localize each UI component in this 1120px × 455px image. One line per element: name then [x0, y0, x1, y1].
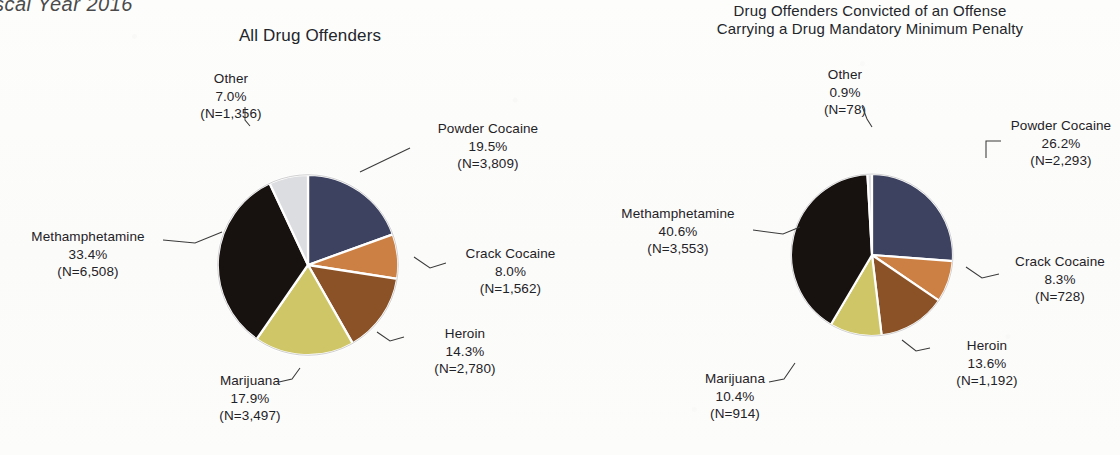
- slice-label-percent: 40.6%: [598, 223, 758, 241]
- slice-label-percent: 17.9%: [190, 390, 310, 408]
- slice-label-name: Powder Cocaine: [413, 120, 563, 138]
- slice-label-count: (N=1,562): [448, 280, 573, 298]
- slice-label-methamphetamine-left: Methamphetamine 33.4% (N=6,508): [8, 228, 168, 281]
- slice-label-name: Methamphetamine: [8, 228, 168, 246]
- slice-label-heroin-right: Heroin 13.6% (N=1,192): [932, 337, 1042, 390]
- slice-label-other-left: Other 7.0% (N=1,356): [176, 70, 286, 123]
- pie-slice: [872, 174, 953, 261]
- slice-label-percent: 26.2%: [1002, 135, 1120, 153]
- chart-title-mandatory-minimum: Drug Offenders Convicted of an Offense C…: [700, 2, 1040, 39]
- slice-label-percent: 14.3%: [405, 343, 525, 361]
- slice-label-count: (N=3,809): [413, 155, 563, 173]
- slice-label-percent: 0.9%: [800, 84, 890, 102]
- slice-label-percent: 8.0%: [448, 263, 573, 281]
- slice-label-name: Marijuana: [190, 372, 310, 390]
- slice-label-count: (N=2,293): [1002, 152, 1120, 170]
- slice-label-count: (N=6,508): [8, 263, 168, 281]
- slice-label-powder-cocaine-left: Powder Cocaine 19.5% (N=3,809): [413, 120, 563, 173]
- leader-crack-cocaine-left: [414, 257, 446, 268]
- slice-label-count: (N=3,497): [190, 407, 310, 425]
- slice-label-percent: 13.6%: [932, 355, 1042, 373]
- pie-chart-mandatory-minimum: [782, 165, 962, 345]
- pie-chart-all-drug-offenders: [213, 170, 403, 360]
- leader-powder-cocaine-right: [986, 141, 1001, 158]
- slice-label-name: Heroin: [405, 325, 525, 343]
- slice-label-count: (N=78): [800, 101, 890, 119]
- slice-label-methamphetamine-right: Methamphetamine 40.6% (N=3,553): [598, 205, 758, 258]
- chart-title-all-drug-offenders: All Drug Offenders: [180, 26, 440, 47]
- slice-label-name: Crack Cocaine: [448, 245, 573, 263]
- slice-label-name: Methamphetamine: [598, 205, 758, 223]
- slice-label-count: (N=2,780): [405, 360, 525, 378]
- slice-label-count: (N=1,192): [932, 372, 1042, 390]
- slice-label-percent: 8.3%: [1000, 271, 1120, 289]
- slice-label-count: (N=1,356): [176, 105, 286, 123]
- chart-title-line-2: Carrying a Drug Mandatory Minimum Penalt…: [700, 20, 1040, 38]
- slice-label-name: Other: [800, 66, 890, 84]
- slice-label-marijuana-right: Marijuana 10.4% (N=914): [680, 370, 790, 423]
- slice-label-name: Powder Cocaine: [1002, 117, 1120, 135]
- slice-label-other-right: Other 0.9% (N=78): [800, 66, 890, 119]
- slice-label-name: Other: [176, 70, 286, 88]
- slice-label-name: Heroin: [932, 337, 1042, 355]
- slice-label-heroin-left: Heroin 14.3% (N=2,780): [405, 325, 525, 378]
- slice-label-count: (N=728): [1000, 288, 1120, 306]
- slice-label-count: (N=3,553): [598, 240, 758, 258]
- running-header: scal Year 2016: [0, 0, 133, 16]
- slice-label-count: (N=914): [680, 405, 790, 423]
- slice-label-percent: 7.0%: [176, 88, 286, 106]
- slice-label-crack-cocaine-right: Crack Cocaine 8.3% (N=728): [1000, 253, 1120, 306]
- slice-label-percent: 19.5%: [413, 138, 563, 156]
- chart-title-line-1: Drug Offenders Convicted of an Offense: [700, 2, 1040, 20]
- slice-label-marijuana-left: Marijuana 17.9% (N=3,497): [190, 372, 310, 425]
- slice-label-name: Marijuana: [680, 370, 790, 388]
- slice-label-percent: 10.4%: [680, 388, 790, 406]
- slice-label-crack-cocaine-left: Crack Cocaine 8.0% (N=1,562): [448, 245, 573, 298]
- leader-crack-cocaine-right: [966, 267, 999, 278]
- leader-powder-cocaine-left: [360, 148, 410, 172]
- slice-label-powder-cocaine-right: Powder Cocaine 26.2% (N=2,293): [1002, 117, 1120, 170]
- slice-label-name: Crack Cocaine: [1000, 253, 1120, 271]
- slice-label-percent: 33.4%: [8, 246, 168, 264]
